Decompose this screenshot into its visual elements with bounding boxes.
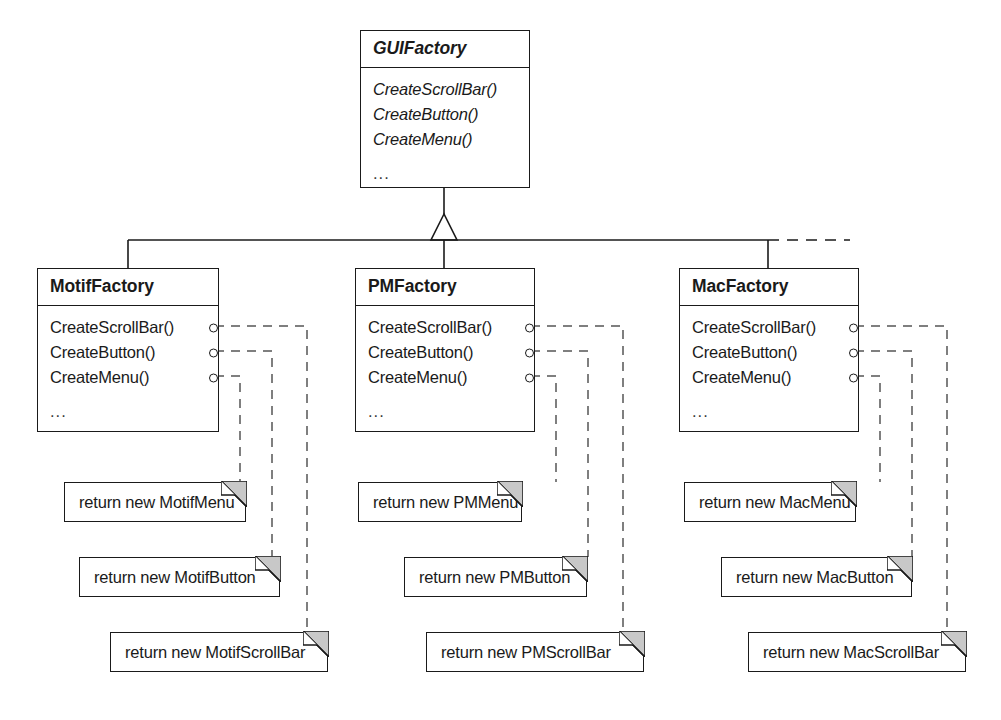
class-name-guifactory: GUIFactory — [361, 31, 529, 68]
operation-anchor-icon — [849, 323, 858, 332]
operations-ellipsis: ... — [373, 152, 517, 186]
note-pm-button[interactable]: return new PMButton — [404, 557, 587, 597]
operation-label: CreateScrollBar() — [368, 318, 492, 336]
operations-ellipsis: ... — [692, 390, 846, 424]
operation-label: CreateMenu() — [368, 368, 467, 386]
operation-anchor-icon — [209, 323, 218, 332]
operation-create-button: CreateButton() — [368, 340, 522, 365]
operation-create-scrollbar: CreateScrollBar() — [373, 77, 517, 102]
operation-create-button: CreateButton() — [692, 340, 846, 365]
operation-anchor-icon — [209, 348, 218, 357]
operation-label: CreateMenu() — [50, 368, 149, 386]
note-fold-corner-icon — [941, 631, 967, 657]
note-fold-corner-icon — [497, 481, 523, 507]
note-text: return new MacButton — [722, 568, 907, 587]
operations-list-motiffactory: CreateScrollBar() CreateButton() CreateM… — [38, 306, 218, 434]
operation-create-scrollbar: CreateScrollBar() — [692, 315, 846, 340]
operation-create-menu: CreateMenu() — [373, 127, 517, 152]
operation-create-button: CreateButton() — [373, 102, 517, 127]
note-text: return new PMButton — [405, 568, 584, 587]
class-box-macfactory[interactable]: MacFactory CreateScrollBar() CreateButto… — [679, 268, 859, 432]
note-mac-menu[interactable]: return new MacMenu — [684, 482, 856, 522]
class-name-pmfactory: PMFactory — [356, 269, 534, 306]
note-fold-corner-icon — [887, 556, 913, 582]
operation-label: CreateScrollBar() — [692, 318, 816, 336]
note-pm-menu[interactable]: return new PMMenu — [358, 482, 522, 522]
note-text: return new MacScrollBar — [749, 643, 953, 662]
note-fold-corner-icon — [831, 481, 857, 507]
operations-list-macfactory: CreateScrollBar() CreateButton() CreateM… — [680, 306, 858, 434]
class-box-motiffactory[interactable]: MotifFactory CreateScrollBar() CreateBut… — [37, 268, 219, 432]
note-text: return new PMScrollBar — [427, 643, 625, 662]
note-fold-corner-icon — [221, 481, 247, 507]
operations-list-guifactory: CreateScrollBar() CreateButton() CreateM… — [361, 68, 529, 196]
uml-class-diagram: GUIFactory CreateScrollBar() CreateButto… — [0, 0, 1001, 720]
operation-create-scrollbar: CreateScrollBar() — [368, 315, 522, 340]
note-mac-scrollbar[interactable]: return new MacScrollBar — [748, 632, 966, 672]
class-box-pmfactory[interactable]: PMFactory CreateScrollBar() CreateButton… — [355, 268, 535, 432]
note-motif-button[interactable]: return new MotifButton — [79, 557, 280, 597]
operation-create-scrollbar: CreateScrollBar() — [50, 315, 206, 340]
operation-create-menu: CreateMenu() — [50, 365, 206, 390]
note-motif-scrollbar[interactable]: return new MotifScrollBar — [110, 632, 328, 672]
operations-ellipsis: ... — [368, 390, 522, 424]
operation-anchor-icon — [525, 348, 534, 357]
note-fold-corner-icon — [255, 556, 281, 582]
note-mac-button[interactable]: return new MacButton — [721, 557, 912, 597]
operation-anchor-icon — [849, 348, 858, 357]
class-box-guifactory[interactable]: GUIFactory CreateScrollBar() CreateButto… — [360, 30, 530, 188]
note-text: return new MotifButton — [80, 568, 270, 587]
operations-ellipsis: ... — [50, 390, 206, 424]
operation-label: CreateMenu() — [692, 368, 791, 386]
note-text: return new MotifScrollBar — [111, 643, 319, 662]
operation-create-menu: CreateMenu() — [368, 365, 522, 390]
operation-label: CreateButton() — [50, 343, 155, 361]
operation-anchor-icon — [849, 373, 858, 382]
operation-create-menu: CreateMenu() — [692, 365, 846, 390]
operation-anchor-icon — [209, 373, 218, 382]
generalization-connector — [128, 188, 850, 268]
note-fold-corner-icon — [303, 631, 329, 657]
note-pm-scrollbar[interactable]: return new PMScrollBar — [426, 632, 644, 672]
note-motif-menu[interactable]: return new MotifMenu — [64, 482, 246, 522]
class-name-motiffactory: MotifFactory — [38, 269, 218, 306]
operation-label: CreateButton() — [368, 343, 473, 361]
class-name-macfactory: MacFactory — [680, 269, 858, 306]
operation-anchor-icon — [525, 373, 534, 382]
operation-create-button: CreateButton() — [50, 340, 206, 365]
operation-anchor-icon — [525, 323, 534, 332]
note-fold-corner-icon — [619, 631, 645, 657]
note-fold-corner-icon — [562, 556, 588, 582]
operations-list-pmfactory: CreateScrollBar() CreateButton() CreateM… — [356, 306, 534, 434]
operation-label: CreateScrollBar() — [50, 318, 174, 336]
operation-label: CreateButton() — [692, 343, 797, 361]
